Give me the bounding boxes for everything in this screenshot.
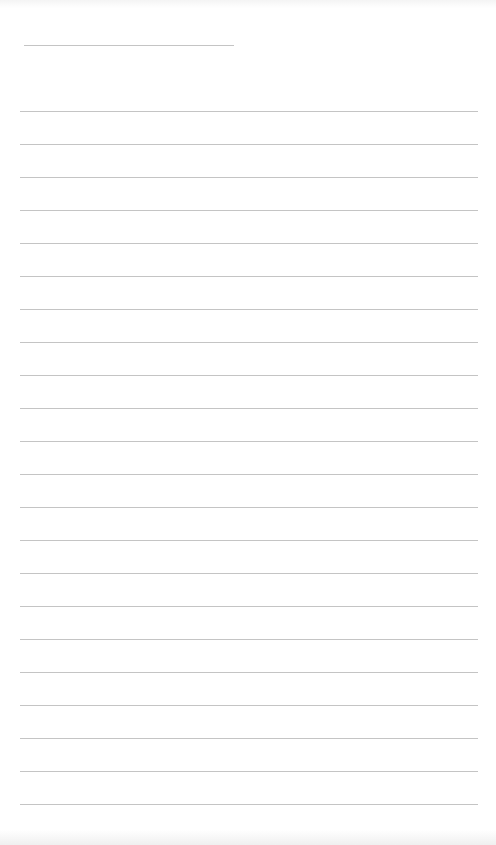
ruled-line [20, 540, 478, 541]
ruled-line [20, 342, 478, 343]
ruled-line [20, 210, 478, 211]
ruled-line [20, 474, 478, 475]
ruled-line [20, 771, 478, 772]
ruled-line [20, 705, 478, 706]
ruled-line [20, 144, 478, 145]
ruled-line [20, 639, 478, 640]
ruled-line [20, 573, 478, 574]
scan-edge-top [0, 0, 496, 8]
ruled-line [20, 276, 478, 277]
ruled-line [20, 606, 478, 607]
header-rule-line [24, 45, 234, 46]
ruled-line [20, 375, 478, 376]
ruled-line [20, 309, 478, 310]
ruled-line [20, 804, 478, 805]
scan-edge-bottom [0, 830, 496, 845]
ruled-line [20, 408, 478, 409]
ruled-line [20, 243, 478, 244]
ruled-line [20, 177, 478, 178]
ruled-line [20, 507, 478, 508]
ruled-line [20, 111, 478, 112]
ruled-line [20, 672, 478, 673]
ruled-line [20, 441, 478, 442]
ruled-line [20, 738, 478, 739]
